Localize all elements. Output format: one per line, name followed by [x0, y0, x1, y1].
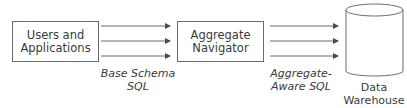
- warehouse-label-line1: Data: [340, 81, 407, 94]
- aggregate-aware-sql-label: Aggregate- Aware SQL: [266, 67, 336, 93]
- base-schema-sql-label: Base Schema SQL: [98, 67, 178, 93]
- aggregate-navigator-box: Aggregate Navigator: [177, 21, 264, 62]
- data-warehouse-label: Data Warehouse: [340, 81, 407, 107]
- arrows-base-sql: [101, 26, 170, 56]
- warehouse-label-line2: Warehouse: [340, 94, 407, 107]
- database-cylinder-icon: [346, 4, 403, 76]
- base-label-line1: Base Schema: [98, 67, 178, 80]
- users-label-line2: Applications: [20, 42, 90, 55]
- users-applications-box: Users and Applications: [12, 21, 99, 62]
- arrows-aware-sql: [270, 26, 338, 56]
- aware-label-line2: Aware SQL: [266, 80, 336, 93]
- aware-label-line1: Aggregate-: [266, 67, 336, 80]
- base-label-line2: SQL: [98, 80, 178, 93]
- navigator-label-line1: Aggregate: [191, 29, 251, 42]
- navigator-label-line2: Navigator: [191, 42, 251, 55]
- users-label-line1: Users and: [20, 29, 90, 42]
